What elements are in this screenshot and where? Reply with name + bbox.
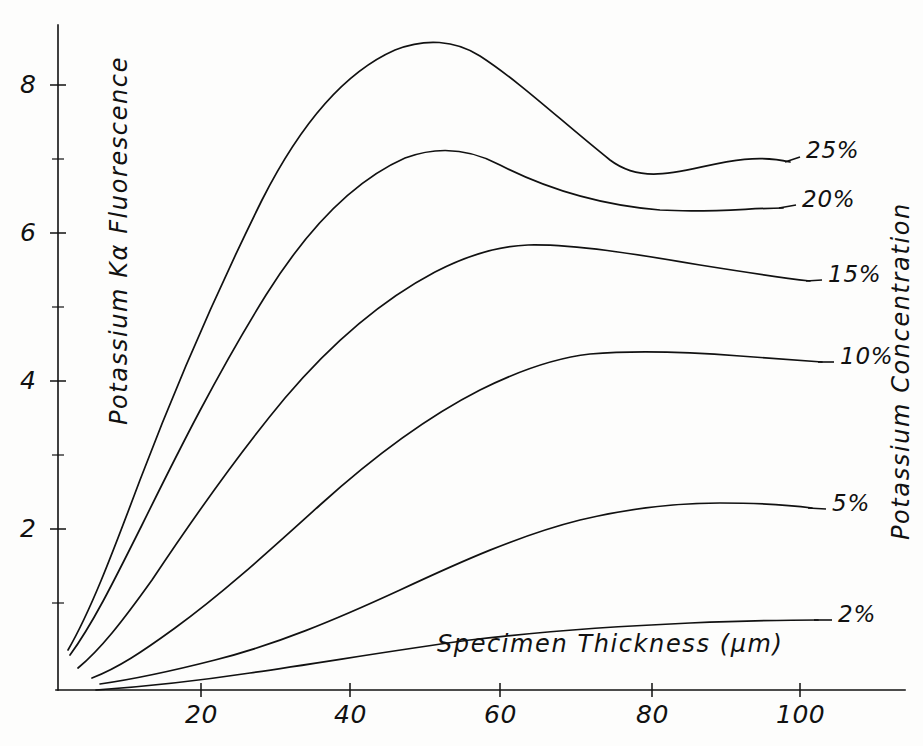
y-tick-label-4: 4 bbox=[20, 366, 36, 395]
series-leader-lines bbox=[779, 157, 834, 620]
leader-15 bbox=[806, 280, 822, 281]
series-label-15: 15% bbox=[828, 261, 882, 287]
series-label-10: 10% bbox=[840, 343, 894, 369]
x-tick-label-20: 20 bbox=[185, 700, 218, 729]
chart-figure: 8 6 4 2 20 40 60 80 100 Potassium Kα Flu… bbox=[0, 0, 923, 746]
series-label-20: 20% bbox=[802, 186, 856, 212]
curve-15-percent bbox=[78, 245, 810, 668]
y-tick-label-6: 6 bbox=[20, 218, 36, 247]
series-label-2: 2% bbox=[838, 601, 876, 627]
y-tick-label-2: 2 bbox=[20, 514, 36, 543]
curve-20-percent bbox=[70, 151, 783, 655]
leader-25 bbox=[785, 157, 800, 162]
right-axis-title: Potassium Concentration bbox=[887, 202, 915, 540]
y-tick-label-8: 8 bbox=[20, 70, 36, 99]
series-label-5: 5% bbox=[832, 490, 870, 516]
x-tick-label-100: 100 bbox=[776, 700, 825, 729]
curve-25-percent bbox=[68, 42, 790, 650]
x-tick-label-80: 80 bbox=[636, 700, 669, 729]
leader-20 bbox=[779, 205, 796, 208]
y-axis-title: Potassium Kα Fluorescence bbox=[105, 56, 133, 425]
x-tick-label-60: 60 bbox=[484, 700, 517, 729]
leader-5 bbox=[808, 508, 826, 509]
x-axis-title: Specimen Thickness (μm) bbox=[437, 630, 784, 658]
series-label-25: 25% bbox=[806, 137, 860, 163]
x-tick-label-40: 40 bbox=[334, 700, 367, 729]
